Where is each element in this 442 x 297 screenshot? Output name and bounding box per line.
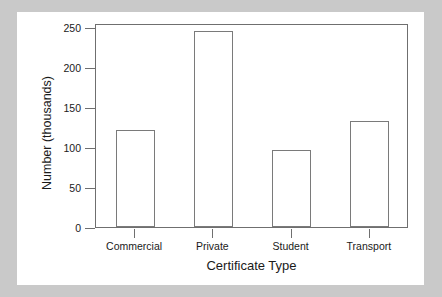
y-tick-mark <box>85 188 95 189</box>
x-tick-mark <box>369 229 370 238</box>
bar-transport <box>350 121 389 227</box>
x-tick-mark <box>291 229 292 238</box>
y-axis-title: Number (thousands) <box>40 33 54 233</box>
chart-paper-card: 050100150200250 Number (thousands) Certi… <box>17 12 424 285</box>
y-tick-mark <box>85 148 95 149</box>
figure-root: 050100150200250 Number (thousands) Certi… <box>0 0 442 297</box>
bar-commercial <box>116 130 155 227</box>
x-tick-mark <box>134 229 135 238</box>
y-tick-mark <box>85 28 95 29</box>
y-tick-mark <box>85 68 95 69</box>
y-tick-label: 250 <box>39 23 81 34</box>
y-tick-mark <box>85 228 95 229</box>
bar-private <box>194 31 233 227</box>
x-tick-label-transport: Transport <box>314 240 424 252</box>
plot-area <box>95 24 408 228</box>
x-axis-title: Certificate Type <box>95 258 408 273</box>
y-tick-mark <box>85 108 95 109</box>
x-tick-mark <box>212 229 213 238</box>
bar-student <box>272 150 311 227</box>
